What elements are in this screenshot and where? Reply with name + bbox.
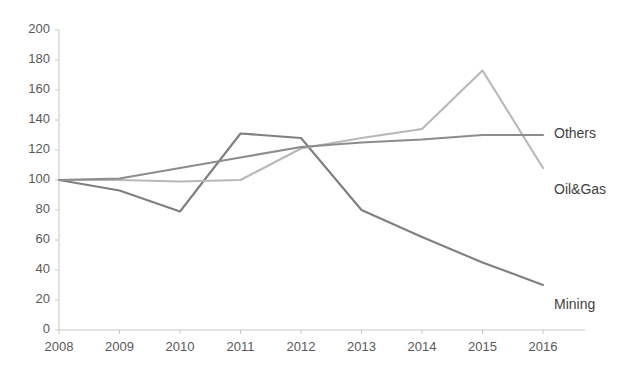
line-chart: 020406080100120140160180200 200820092010… [0,0,620,373]
x-tick-label: 2011 [227,339,255,354]
y-tick-label: 60 [36,231,50,246]
y-tick-label: 80 [36,201,50,216]
x-tick-label: 2016 [529,339,558,354]
y-tick-label: 0 [43,321,50,336]
y-tick-label: 100 [28,171,50,186]
series-label-others: Others [554,125,596,141]
x-tick-label: 2010 [166,339,195,354]
series-line-oil-gas [59,71,543,182]
series-label-mining: Mining [554,296,595,312]
series-label-oil-and-gas: Oil&Gas [554,181,606,197]
x-tick-label: 2014 [408,339,437,354]
y-tick-label: 200 [28,21,50,36]
x-tick-label: 2008 [45,339,74,354]
y-tick-label: 160 [28,81,50,96]
chart-plot-area: 020406080100120140160180200 200820092010… [0,0,620,373]
x-tick-label: 2015 [468,339,497,354]
series-line-mining [59,134,543,286]
y-axis: 020406080100120140160180200 [28,21,59,336]
x-axis: 200820092010201120122013201420152016 [45,330,585,354]
x-tick-label: 2013 [347,339,376,354]
x-tick-label: 2012 [287,339,316,354]
series-line-others [59,135,543,180]
x-tick-label: 2009 [105,339,134,354]
y-tick-label: 140 [28,111,50,126]
y-tick-label: 20 [36,291,50,306]
y-tick-label: 180 [28,51,50,66]
y-tick-label: 120 [28,141,50,156]
series-lines [59,71,543,286]
series-labels: MiningOil&GasOthers [554,125,606,312]
y-tick-label: 40 [36,261,50,276]
